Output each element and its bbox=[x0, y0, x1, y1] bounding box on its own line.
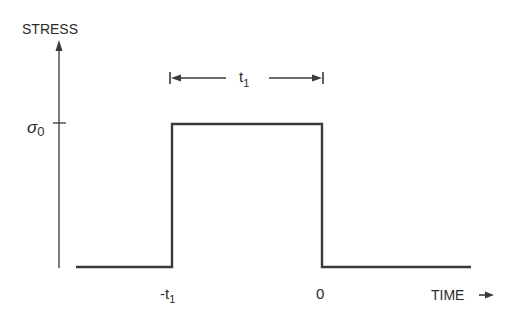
x-tick-start-label: -t1 bbox=[160, 285, 175, 305]
y-axis-label: STRESS bbox=[22, 21, 78, 37]
sigma0-label: σ0 bbox=[27, 118, 45, 139]
y-axis: STRESS bbox=[22, 21, 78, 268]
x-tick-zero-label: 0 bbox=[316, 285, 324, 302]
duration-dimension: t1 bbox=[170, 68, 323, 89]
x-axis-arrow-icon bbox=[485, 292, 494, 299]
stress-pulse-line bbox=[76, 124, 471, 267]
x-axis-label-group: TIME bbox=[431, 287, 494, 303]
dimension-right-arrow-icon bbox=[312, 75, 322, 82]
sigma0-tick: σ0 bbox=[27, 118, 66, 139]
dimension-left-arrow-icon bbox=[171, 75, 181, 82]
dimension-label: t1 bbox=[239, 68, 249, 89]
y-axis-arrowhead-icon bbox=[56, 40, 63, 51]
stress-time-diagram: STRESS σ0 t1 -t1 0 TIME bbox=[0, 0, 514, 322]
x-axis-label: TIME bbox=[431, 287, 464, 303]
